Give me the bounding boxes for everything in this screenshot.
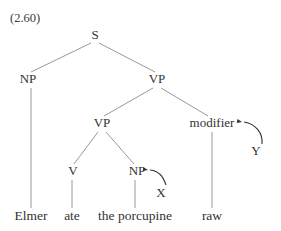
annotation-arrow-curve — [244, 122, 262, 144]
tree-node-modifier: modifier — [190, 116, 235, 129]
tree-branch — [74, 132, 98, 164]
tree-branch — [106, 132, 134, 164]
annotation-label-x: X — [156, 186, 165, 199]
terminal-word-w4: raw — [202, 209, 222, 223]
tree-node-np1: NP — [20, 72, 37, 85]
tree-branch — [31, 43, 91, 72]
tree-node-s: S — [91, 28, 98, 41]
tree-edge-canvas — [0, 0, 281, 231]
annotation-arrow-curve — [150, 170, 166, 185]
tree-node-v: V — [68, 164, 77, 177]
terminal-word-w3: the porcupine — [98, 209, 172, 223]
annotation-label-y: Y — [251, 144, 260, 157]
tree-branches — [31, 43, 212, 208]
terminal-word-w2: ate — [64, 209, 80, 223]
tree-node-np2: NP — [129, 164, 146, 177]
tree-node-vp2: VP — [94, 116, 111, 129]
tree-node-vp1: VP — [149, 72, 166, 85]
tree-branch — [161, 88, 208, 116]
terminal-word-w1: Elmer — [15, 209, 48, 223]
annotation-arrowhead — [237, 119, 243, 124]
tree-branch — [104, 88, 153, 116]
tree-branch — [99, 43, 155, 72]
syntax-tree-figure: (2.60) SNPVPVPmodifierVNP XY Elmeratethe… — [0, 0, 281, 231]
